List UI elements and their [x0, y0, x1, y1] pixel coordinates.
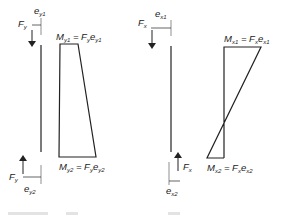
left-diagram: Fy ey1 My1 = Fyey1 My2 = Fyey2 Fy ey2 — [9, 5, 105, 195]
moment-my1-label: My1 = Fyey1 — [56, 31, 102, 43]
right-diagram: Fx ex1 Mx1 = Fxex1 Mx2 = Fxex2 Fx ex2 — [138, 8, 270, 197]
moment-mx2-label: Mx2 = Fxex2 — [207, 162, 253, 174]
moment-diagrams: Fy ey1 My1 = Fyey1 My2 = Fyey2 Fy ey2 Fx… — [0, 0, 283, 216]
force-fy-top: Fy — [18, 18, 28, 30]
moment-diagram-y — [59, 44, 96, 157]
moment-my2-label: My2 = Fyey2 — [59, 161, 105, 173]
moment-mx1-label: Mx1 = Fxex1 — [224, 33, 270, 45]
cropped-caption-residue — [8, 212, 180, 215]
force-fx-top: Fx — [138, 17, 148, 29]
moment-diagram-x — [207, 47, 261, 158]
ecc-ey1: ey1 — [34, 5, 46, 17]
ecc-ex2: ex2 — [166, 185, 178, 197]
ecc-ey2: ey2 — [24, 183, 36, 195]
force-fx-bottom: Fx — [183, 161, 193, 173]
force-fy-bottom: Fy — [9, 171, 19, 183]
ecc-ex1: ex1 — [155, 8, 167, 20]
